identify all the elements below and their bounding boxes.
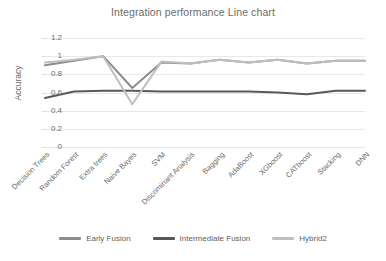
series-line [45, 91, 365, 98]
legend-item[interactable]: Intermediate Fusion [153, 234, 251, 243]
series-lines [45, 38, 365, 147]
series-line [45, 56, 365, 104]
y-axis-tick-mark [42, 129, 45, 130]
line-chart: Integration performance Line chart Accur… [0, 0, 386, 261]
legend-item[interactable]: Early Fusion [59, 234, 130, 243]
plot-area [45, 38, 365, 147]
chart-legend: Early FusionIntermediate FusionHybrid2 [0, 234, 386, 243]
legend-item[interactable]: Hybrid2 [272, 234, 327, 243]
y-axis-tick-mark [42, 38, 45, 39]
y-axis-tick-mark [42, 56, 45, 57]
chart-title: Integration performance Line chart [0, 6, 386, 18]
legend-line-icon [59, 237, 81, 240]
legend-label: Early Fusion [86, 234, 130, 243]
y-axis-title: Accuracy [13, 53, 23, 113]
legend-label: Hybrid2 [299, 234, 327, 243]
y-axis-tick-mark [42, 74, 45, 75]
x-axis-tick-label: Extra trees [0, 150, 110, 261]
legend-label: Intermediate Fusion [180, 234, 251, 243]
y-axis-tick-mark [42, 93, 45, 94]
legend-line-icon [153, 237, 175, 240]
legend-line-icon [272, 237, 294, 240]
x-axis-labels: Decision TreesRandom ForestExtra treesNa… [45, 148, 365, 223]
y-axis-tick-mark [42, 111, 45, 112]
